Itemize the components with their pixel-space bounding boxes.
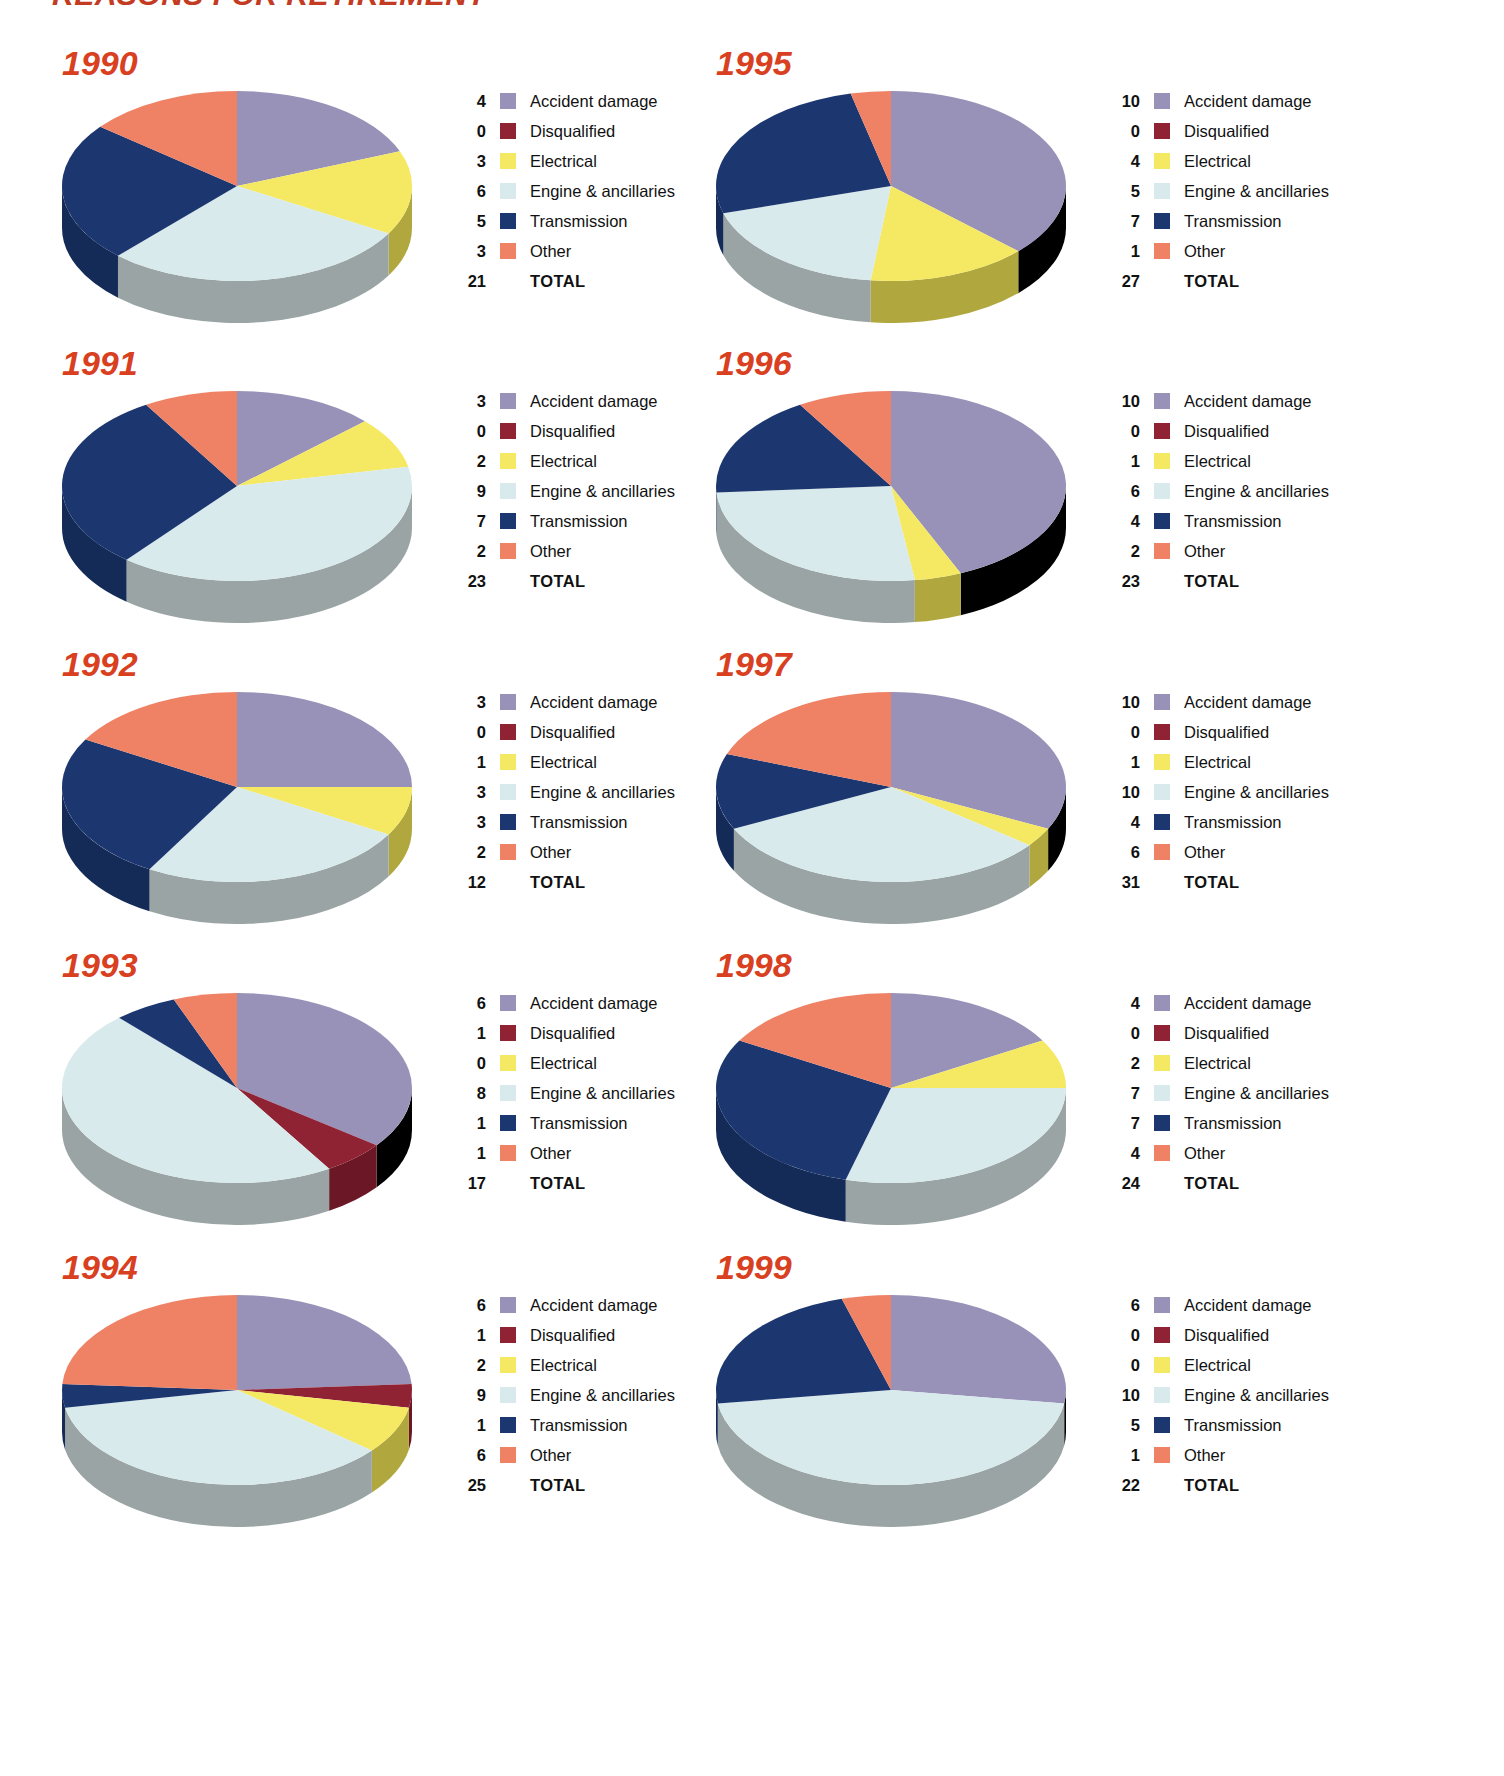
legend-total-value: 25 xyxy=(452,1476,486,1495)
legend-label: Transmission xyxy=(530,212,628,231)
legend-total-value: 22 xyxy=(1106,1476,1140,1495)
legend-swatch-electrical-icon xyxy=(500,1357,516,1373)
legend-label: Engine & ancillaries xyxy=(530,783,675,802)
pie-legend: 6Accident damage0Disqualified0Electrical… xyxy=(1106,1290,1406,1500)
pie-panel-1990: 19904Accident damage0Disqualified3Electr… xyxy=(52,44,752,344)
legend-label: Accident damage xyxy=(1184,392,1312,411)
legend-row-other: 4Other xyxy=(1106,1138,1406,1168)
legend-swatch-other-icon xyxy=(1154,1447,1170,1463)
pie-chart xyxy=(52,378,452,623)
legend-label: Transmission xyxy=(1184,813,1282,832)
legend-value: 7 xyxy=(1106,1114,1140,1133)
legend-value: 3 xyxy=(452,392,486,411)
legend-label: Disqualified xyxy=(530,422,615,441)
legend-value: 10 xyxy=(1106,693,1140,712)
legend-swatch-disqualified-icon xyxy=(500,724,516,740)
legend-total-spacer xyxy=(500,273,516,289)
legend-label: Other xyxy=(530,1446,571,1465)
legend-swatch-engine-icon xyxy=(500,784,516,800)
legend-swatch-accident_damage-icon xyxy=(500,1297,516,1313)
legend-label: Transmission xyxy=(530,1416,628,1435)
legend-label: Electrical xyxy=(530,1356,597,1375)
pie-panel-1992: 19923Accident damage0Disqualified1Electr… xyxy=(52,645,752,945)
pie-chart xyxy=(706,78,1106,323)
pie-chart xyxy=(706,679,1106,924)
legend-swatch-transmission-icon xyxy=(1154,1417,1170,1433)
legend-value: 2 xyxy=(452,452,486,471)
legend-swatch-other-icon xyxy=(1154,844,1170,860)
legend-row-disqualified: 0Disqualified xyxy=(1106,1018,1406,1048)
legend-row-total: 24TOTAL xyxy=(1106,1168,1406,1198)
legend-value: 3 xyxy=(452,813,486,832)
legend-value: 9 xyxy=(452,1386,486,1405)
pie-svg xyxy=(706,78,1106,323)
legend-value: 0 xyxy=(1106,1024,1140,1043)
legend-swatch-electrical-icon xyxy=(500,453,516,469)
legend-row-disqualified: 0Disqualified xyxy=(1106,416,1406,446)
pie-legend: 10Accident damage0Disqualified1Electrica… xyxy=(1106,687,1406,897)
legend-swatch-engine-icon xyxy=(1154,1387,1170,1403)
legend-swatch-disqualified-icon xyxy=(500,423,516,439)
legend-swatch-other-icon xyxy=(500,1145,516,1161)
legend-value: 1 xyxy=(1106,1446,1140,1465)
legend-value: 4 xyxy=(452,92,486,111)
legend-label: Accident damage xyxy=(1184,92,1312,111)
legend-value: 7 xyxy=(1106,1084,1140,1103)
legend-value: 7 xyxy=(452,512,486,531)
legend-label: Disqualified xyxy=(1184,723,1269,742)
legend-value: 4 xyxy=(1106,152,1140,171)
legend-total-spacer xyxy=(1154,1175,1170,1191)
legend-label: Electrical xyxy=(530,1054,597,1073)
legend-total-value: 17 xyxy=(452,1174,486,1193)
legend-label: Disqualified xyxy=(530,723,615,742)
legend-value: 0 xyxy=(452,723,486,742)
pie-svg xyxy=(706,679,1106,924)
legend-label: Accident damage xyxy=(530,92,658,111)
legend-row-accident_damage: 10Accident damage xyxy=(1106,687,1406,717)
legend-swatch-other-icon xyxy=(500,1447,516,1463)
legend-row-engine: 5Engine & ancillaries xyxy=(1106,176,1406,206)
legend-total-value: 27 xyxy=(1106,272,1140,291)
legend-row-electrical: 0Electrical xyxy=(1106,1350,1406,1380)
legend-swatch-accident_damage-icon xyxy=(1154,93,1170,109)
pie-chart xyxy=(706,378,1106,623)
legend-swatch-electrical-icon xyxy=(500,153,516,169)
pie-chart xyxy=(706,1282,1106,1527)
legend-total-spacer xyxy=(1154,1477,1170,1493)
legend-label: Other xyxy=(530,542,571,561)
legend-swatch-accident_damage-icon xyxy=(1154,694,1170,710)
legend-swatch-transmission-icon xyxy=(1154,814,1170,830)
legend-value: 2 xyxy=(1106,542,1140,561)
legend-swatch-other-icon xyxy=(500,543,516,559)
legend-total-label: TOTAL xyxy=(530,272,585,291)
legend-value: 3 xyxy=(452,693,486,712)
legend-value: 4 xyxy=(1106,512,1140,531)
legend-swatch-electrical-icon xyxy=(1154,1357,1170,1373)
legend-label: Transmission xyxy=(530,512,628,531)
legend-swatch-accident_damage-icon xyxy=(500,93,516,109)
legend-total-spacer xyxy=(1154,573,1170,589)
legend-value: 1 xyxy=(452,1114,486,1133)
legend-value: 1 xyxy=(1106,242,1140,261)
legend-value: 0 xyxy=(1106,422,1140,441)
legend-value: 4 xyxy=(1106,813,1140,832)
legend-row-other: 6Other xyxy=(1106,837,1406,867)
legend-total-label: TOTAL xyxy=(1184,272,1239,291)
legend-value: 1 xyxy=(452,1024,486,1043)
legend-total-value: 23 xyxy=(1106,572,1140,591)
legend-row-disqualified: 0Disqualified xyxy=(1106,717,1406,747)
legend-swatch-transmission-icon xyxy=(500,1417,516,1433)
legend-swatch-electrical-icon xyxy=(500,754,516,770)
legend-label: Transmission xyxy=(1184,212,1282,231)
legend-label: Electrical xyxy=(1184,152,1251,171)
legend-value: 1 xyxy=(452,1144,486,1163)
legend-swatch-transmission-icon xyxy=(500,213,516,229)
legend-row-other: 1Other xyxy=(1106,236,1406,266)
legend-value: 1 xyxy=(452,1326,486,1345)
legend-swatch-transmission-icon xyxy=(1154,513,1170,529)
legend-swatch-engine-icon xyxy=(1154,1085,1170,1101)
legend-value: 5 xyxy=(452,212,486,231)
legend-value: 4 xyxy=(1106,994,1140,1013)
legend-row-transmission: 4Transmission xyxy=(1106,506,1406,536)
legend-label: Accident damage xyxy=(530,693,658,712)
